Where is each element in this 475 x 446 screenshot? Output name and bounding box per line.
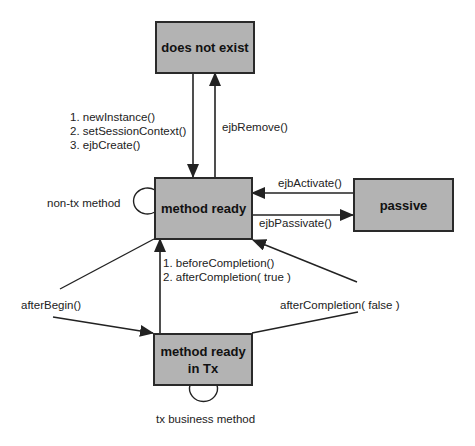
tx-business-loop	[190, 385, 218, 401]
non-tx-loop	[134, 188, 155, 214]
label-create-1: 1. newInstance()	[70, 110, 155, 124]
after-begin-arrow	[53, 317, 153, 333]
label-after-begin: afterBegin()	[21, 298, 81, 312]
label-create-3: 3. ejbCreate()	[70, 138, 140, 152]
state-label-line1: method ready	[160, 343, 245, 360]
label-rollback: afterCompletion( false )	[280, 298, 400, 312]
label-commit-1: 1. beforeCompletion()	[163, 256, 274, 270]
label-passivate: ejbPassivate()	[259, 216, 332, 230]
state-method-ready: method ready	[154, 177, 253, 240]
label-remove: ejbRemove()	[222, 120, 288, 134]
label-activate: ejbActivate()	[278, 176, 342, 190]
state-label: method ready	[161, 200, 246, 217]
label-commit-2: 2. afterCompletion( true )	[163, 270, 291, 284]
state-method-ready-in-tx: method ready in Tx	[153, 333, 253, 386]
state-label: does not exist	[161, 39, 248, 56]
state-label-line2: in Tx	[188, 360, 218, 377]
state-does-not-exist: does not exist	[155, 21, 255, 74]
label-create-2: 2. setSessionContext()	[70, 124, 186, 138]
state-passive: passive	[353, 178, 454, 232]
state-label: passive	[380, 197, 428, 214]
label-non-tx: non-tx method	[47, 196, 121, 210]
label-tx-business: tx business method	[156, 412, 255, 426]
